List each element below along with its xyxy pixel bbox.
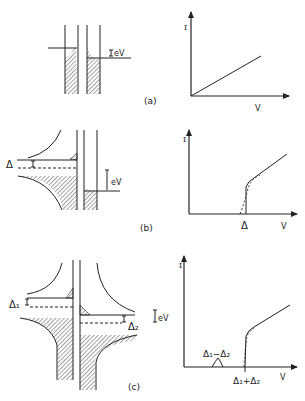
panel-a-ev-label: eV	[114, 49, 125, 58]
panel-b-iv-chart: I Δ V	[183, 130, 297, 231]
panel-a-energy-diagram: eV	[48, 25, 131, 94]
figure-canvas: eV (a) I V Δ eV (b)	[0, 0, 305, 401]
panel-c-x-axis-label: V	[280, 373, 286, 382]
panel-a-x-axis-label: V	[255, 104, 261, 113]
panel-c-label: (c)	[128, 382, 140, 392]
panel-b-label: (b)	[140, 223, 153, 233]
panel-c-y-axis-label: I	[179, 261, 182, 270]
panel-c-threshold-label: Δ₁+Δ₂	[233, 376, 260, 386]
panel-c-energy-diagram: Δ₁ Δ₂ eV	[9, 260, 169, 390]
panel-b-ev-label: eV	[111, 178, 122, 187]
panel-c-delta2-label: Δ₂	[128, 321, 139, 332]
panel-b-y-axis-label: I	[183, 135, 186, 144]
panel-a-iv-chart: I V	[184, 12, 289, 113]
panel-a-y-axis-label: I	[184, 23, 187, 32]
panel-c-ev-label: eV	[158, 314, 169, 323]
panel-c-delta1-label: Δ₁	[9, 299, 20, 310]
panel-b-delta-label: Δ	[6, 159, 13, 170]
panel-c-peak-label: Δ₁−Δ₂	[203, 349, 230, 359]
panel-b-x-axis-label: V	[281, 222, 287, 231]
panel-c-iv-chart: I Δ₁−Δ₂ Δ₁+Δ₂ V	[179, 256, 297, 386]
panel-b-delta-tick-label: Δ	[241, 220, 248, 231]
panel-b-energy-diagram: Δ eV	[6, 130, 122, 210]
panel-a-label: (a)	[144, 96, 157, 106]
